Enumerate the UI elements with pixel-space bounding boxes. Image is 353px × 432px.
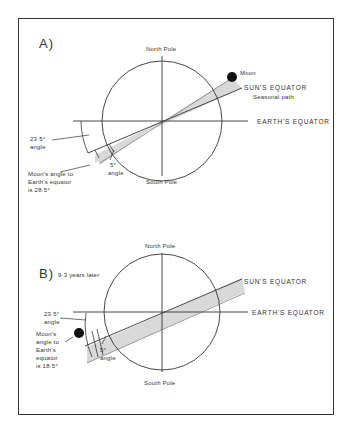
moon-icon-a — [227, 72, 237, 82]
panel-a-diagram — [52, 56, 248, 181]
moon-angle-label-a-1: Moon's angle to — [28, 171, 73, 178]
tilt-angle-word-a: angle — [30, 144, 46, 151]
five-angle-word-a: angle — [108, 170, 124, 177]
moon-angle-label-b-2: angle to — [36, 339, 59, 346]
moon-angle-label-b-5: is 18·5° — [36, 363, 58, 370]
south-pole-label-a: South Pole — [146, 179, 177, 186]
tilt-angle-word-b: angle — [44, 319, 60, 326]
sun-equator-line-a — [88, 88, 242, 153]
panel-b-label: B) — [39, 266, 54, 281]
moon-angle-label-b-4: equator — [36, 355, 58, 362]
sun-equator-label-b: SUN'S EQUATOR — [244, 278, 307, 285]
south-pole-label-b: South Pole — [144, 380, 175, 387]
five-angle-word-b: angle — [100, 355, 116, 362]
seasonal-path-label: Seasonal path — [253, 94, 294, 101]
panel-b-subtitle: 9·3 years later — [58, 272, 99, 279]
moon-icon-b — [74, 328, 84, 338]
panel-a-label: A) — [39, 36, 54, 51]
moon-angle-label-a-3: is 28·5° — [28, 187, 50, 194]
moon-angle-label-b-1: Moon's — [36, 331, 56, 338]
earth-equator-label-b: EARTH'S EQUATOR — [252, 309, 325, 316]
panel-b-diagram — [60, 253, 248, 372]
five-angle-label-b: 5° — [100, 347, 106, 354]
tilt-angle-label-b: 23·5° — [44, 311, 59, 318]
moon-angle-label-b-3: Earth's — [36, 347, 56, 354]
moon-angle-label-a-2: Earth's equator — [28, 179, 72, 186]
north-pole-label-b: North Pole — [145, 243, 175, 250]
five-angle-label-a: 5° — [110, 162, 116, 169]
moon-label-a: Moon — [240, 70, 256, 77]
tilt-angle-label-a: 23·5° — [30, 136, 45, 143]
sun-equator-label-a: SUN'S EQUATOR — [244, 84, 307, 91]
north-pole-label-a: North Pole — [146, 46, 176, 53]
earth-equator-label-a: EARTH'S EQUATOR — [257, 118, 330, 125]
